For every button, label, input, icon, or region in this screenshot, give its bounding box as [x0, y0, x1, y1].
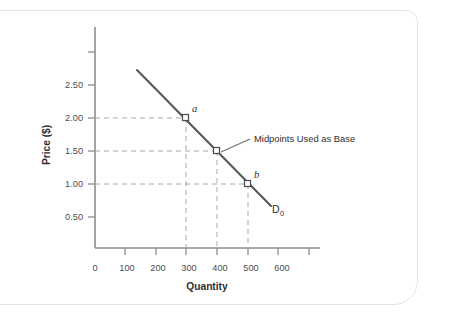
x-tick-label-200: 200 [150, 263, 165, 273]
curve-label-d0: D [272, 203, 280, 215]
y-axis-tick-labels: 2.50 2.00 1.50 1.00 0.50 [65, 80, 83, 222]
annotation-leader-line [221, 139, 250, 152]
y-tick-label-2-00: 2.00 [65, 113, 83, 123]
guide-lines-group [95, 118, 248, 248]
x-tick-label-100: 100 [119, 263, 134, 273]
data-point-marker-b[interactable] [245, 181, 251, 187]
data-point-marker-a[interactable] [183, 115, 189, 121]
x-tick-label-300: 300 [181, 263, 196, 273]
x-tick-label-400: 400 [212, 263, 227, 273]
y-tick-label-1-50: 1.50 [65, 146, 83, 156]
x-axis-title: Quantity [186, 281, 228, 292]
y-tick-label-2-50: 2.50 [65, 80, 83, 90]
figure-root: 2.50 2.00 1.50 1.00 0.50 0 100 200 300 4… [0, 0, 456, 321]
annotation-midpoints-used-as-base: Midpoints Used as Base [254, 133, 355, 144]
x-tick-label-0: 0 [92, 263, 97, 273]
y-axis-ticks [88, 52, 95, 217]
demand-curve-chart: 2.50 2.00 1.50 1.00 0.50 0 100 200 300 4… [0, 0, 456, 321]
data-point-label-a: a [192, 103, 197, 114]
x-axis-tick-labels: 0 100 200 300 400 500 600 [92, 263, 289, 273]
y-tick-label-1-00: 1.00 [65, 179, 83, 189]
curve-label-d0-group: D 0 [272, 203, 284, 218]
x-tick-label-500: 500 [243, 263, 258, 273]
data-point-marker-midpoint[interactable] [214, 148, 220, 154]
x-axis-ticks [125, 248, 309, 255]
curve-label-d0-subscript: 0 [280, 209, 284, 218]
data-point-label-b: b [254, 169, 259, 180]
y-axis-title: Price ($) [41, 125, 52, 165]
y-tick-label-0-50: 0.50 [65, 212, 83, 222]
x-tick-label-600: 600 [274, 263, 289, 273]
